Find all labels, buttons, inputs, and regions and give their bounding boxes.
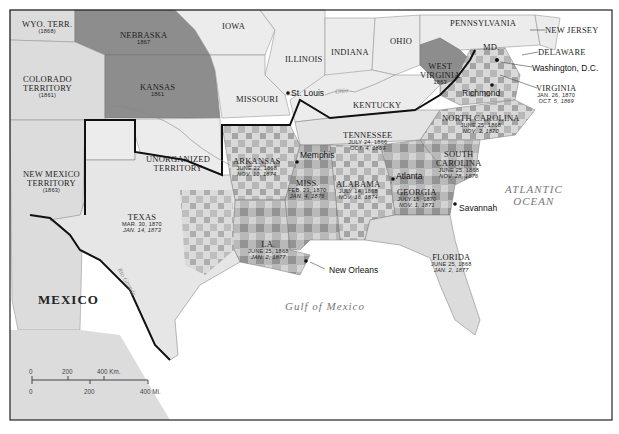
scale-km-400: 400 Km.	[97, 368, 120, 375]
scale-km-200: 200	[62, 368, 73, 375]
label-new-mexico: NEW MEXICO TERRITORY (1863)	[23, 170, 80, 194]
city-richmond: Richmond	[462, 88, 500, 98]
label-tennessee: TENNESSEE JULY 24, 1866 OCT. 4, 1869	[343, 131, 393, 152]
label-mississippi: MISS. FEB. 23, 1870 JAN. 4, 1876	[288, 179, 326, 200]
label-new-jersey: NEW JERSEY	[545, 26, 599, 35]
label-virginia: VIRGINIA JAN. 26, 1870 OCT. 5, 1869	[536, 84, 576, 105]
mexico-label: MEXICO	[38, 292, 99, 308]
gulf-of-mexico-label: Gulf of Mexico	[285, 300, 365, 312]
label-unorganized-territory: UNORGANIZED TERRITORY	[146, 155, 210, 173]
memphis-dot	[295, 160, 299, 164]
map-canvas	[0, 0, 619, 434]
label-pennsylvania: PENNSYLVANIA	[450, 19, 516, 28]
label-nebraska: NEBRASKA 1867	[120, 31, 167, 46]
savannah-dot	[453, 202, 457, 206]
label-iowa: IOWA	[222, 22, 245, 31]
label-west-virginia: WEST VIRGINIA 1863	[420, 62, 460, 86]
scale-mi-0: 0	[29, 388, 33, 395]
label-arkansas: ARKANSAS JUNE 22, 1868 NOV. 10, 1874	[233, 157, 280, 178]
label-delaware: DELAWARE	[538, 48, 586, 57]
label-maryland: MD.	[483, 43, 499, 52]
label-illinois: ILLINOIS	[285, 55, 322, 64]
label-south-carolina: SOUTH CAROLINA JUNE 25, 1868 NOV. 28, 18…	[436, 150, 482, 180]
new-orleans-dot	[304, 259, 308, 263]
washington-star	[495, 58, 499, 62]
st-louis-dot	[286, 91, 290, 95]
label-colorado: COLORADO TERRITORY (1861)	[23, 75, 72, 99]
label-north-carolina: NORTH CAROLINA JUNE 25, 1868 NOV. 3, 187…	[442, 114, 520, 135]
label-indiana: INDIANA	[331, 48, 369, 57]
label-georgia: GEORGIA JULY 15, 1870 NOV. 1, 1871	[397, 188, 437, 209]
city-new-orleans: New Orleans	[329, 265, 378, 275]
city-atlanta: Atlanta	[396, 171, 422, 181]
scale-mi-200: 200	[84, 388, 95, 395]
label-louisiana: LA. JUNE 25, 1868 JAN. 2, 1877	[248, 240, 289, 261]
label-florida: FLORIDA JUNE 25, 1868 JAN. 2, 1877	[431, 253, 472, 274]
label-kentucky: KENTUCKY	[353, 101, 401, 110]
reconstruction-map: WYO. TERR. (1868) NEBRASKA 1867 COLORADO…	[0, 0, 619, 434]
atlanta-dot	[391, 177, 395, 181]
label-wyoming: WYO. TERR. (1868)	[22, 20, 72, 35]
label-alabama: ALABAMA JULY 14, 1868 NOV. 16, 1874	[336, 180, 380, 201]
atlantic-ocean-label: ATLANTIC OCEAN	[505, 183, 563, 207]
scale-km-0: 0	[29, 368, 33, 375]
city-washington-dc: Washington, D.C.	[532, 63, 598, 73]
city-savannah: Savannah	[459, 203, 497, 213]
label-texas: TEXAS MAR. 30, 1870 JAN. 14, 1873	[122, 213, 162, 234]
label-ohio: OHIO	[390, 37, 412, 46]
scale-mi-400: 400 Mi.	[140, 388, 161, 395]
richmond-dot	[490, 83, 494, 87]
label-missouri: MISSOURI	[236, 95, 278, 104]
city-st-louis: St. Louis	[291, 88, 324, 98]
label-kansas: KANSAS 1861	[140, 83, 175, 98]
city-memphis: Memphis	[300, 150, 334, 160]
